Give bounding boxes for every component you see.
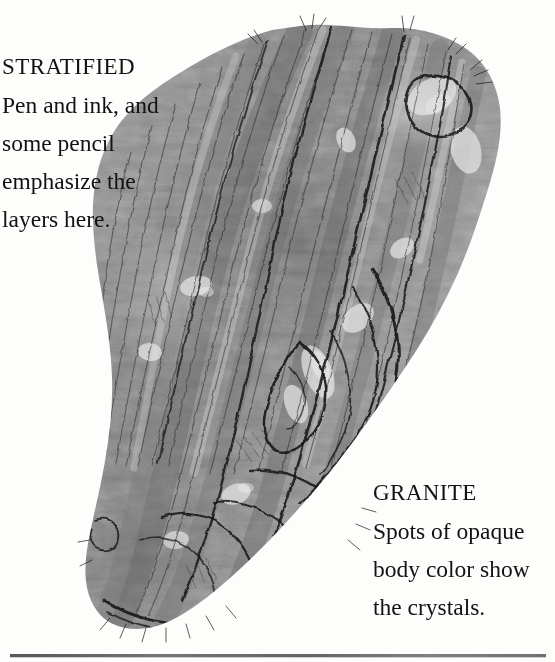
- page-divider-rule: [10, 654, 546, 657]
- caption-stratified-line-4: layers here.: [2, 200, 159, 238]
- caption-stratified-line-2: some pencil: [2, 124, 159, 162]
- caption-stratified-title: STRATIFIED: [2, 48, 159, 86]
- caption-stratified-line-1: Pen and ink, and: [2, 86, 159, 124]
- caption-granite-line-1: Spots of opaque: [373, 512, 530, 550]
- caption-stratified: STRATIFIED Pen and ink, and some pencil …: [2, 48, 159, 238]
- caption-granite-line-2: body color show: [373, 550, 530, 588]
- book-page: STRATIFIED Pen and ink, and some pencil …: [0, 0, 555, 662]
- caption-granite: GRANITE Spots of opaque body color show …: [373, 474, 530, 626]
- caption-stratified-line-3: emphasize the: [2, 162, 159, 200]
- caption-granite-line-3: the crystals.: [373, 588, 530, 626]
- caption-granite-title: GRANITE: [373, 474, 530, 512]
